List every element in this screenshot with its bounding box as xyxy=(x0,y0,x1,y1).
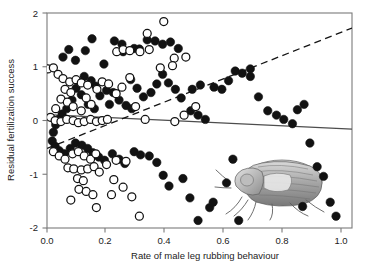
y-tick-label: 1 xyxy=(33,61,38,72)
data-point xyxy=(222,179,230,187)
data-point xyxy=(61,155,69,163)
data-point xyxy=(209,198,217,206)
data-point xyxy=(136,151,144,159)
data-point xyxy=(119,183,127,191)
data-point xyxy=(151,37,159,45)
data-point xyxy=(145,46,153,54)
data-point xyxy=(92,204,100,212)
data-point xyxy=(112,90,120,98)
x-axis-tick-labels: 0.0 0.2 0.4 0.6 0.8 1.0 xyxy=(40,235,347,246)
data-point xyxy=(280,115,288,123)
data-point xyxy=(164,79,172,87)
data-point xyxy=(188,85,196,93)
data-point xyxy=(103,161,111,169)
data-point xyxy=(254,93,262,101)
data-point xyxy=(67,196,75,204)
data-point xyxy=(165,182,173,190)
data-point xyxy=(313,163,321,171)
data-point xyxy=(201,115,209,123)
data-point xyxy=(110,37,118,45)
data-point xyxy=(118,83,126,91)
data-point xyxy=(246,65,254,73)
data-point xyxy=(103,115,111,123)
data-point xyxy=(133,84,141,92)
data-point xyxy=(159,171,167,179)
data-point xyxy=(218,85,226,93)
beetle-illustration xyxy=(215,160,324,220)
data-point xyxy=(147,88,155,96)
data-point xyxy=(126,47,134,55)
data-point xyxy=(145,152,153,160)
data-point xyxy=(153,80,161,88)
x-tick-label: 0.4 xyxy=(157,235,170,246)
data-point xyxy=(194,111,202,119)
data-point xyxy=(95,168,103,176)
data-point xyxy=(143,29,151,37)
data-point xyxy=(194,216,202,224)
data-point xyxy=(224,77,232,85)
data-point xyxy=(264,107,272,115)
data-point xyxy=(170,54,178,62)
data-point xyxy=(180,111,188,119)
data-point xyxy=(319,172,327,180)
data-point xyxy=(77,107,85,115)
data-point xyxy=(326,198,334,206)
data-point xyxy=(84,81,92,89)
data-point xyxy=(153,158,161,166)
data-point xyxy=(67,89,75,97)
x-axis-title: Rate of male leg rubbing behaviour xyxy=(131,250,279,261)
data-point xyxy=(79,177,87,185)
data-point xyxy=(122,157,130,165)
data-point xyxy=(174,44,182,52)
y-tick-label: 2 xyxy=(33,8,38,19)
data-point xyxy=(300,100,308,108)
data-point xyxy=(71,56,79,64)
data-point xyxy=(288,120,296,128)
data-point xyxy=(272,111,280,119)
data-point xyxy=(229,155,237,163)
y-axis-tick-labels: 2 1 0 -1 -2 xyxy=(30,8,38,234)
y-tick-label: -1 xyxy=(30,169,38,180)
data-point xyxy=(128,193,136,201)
data-point xyxy=(156,64,164,72)
data-point xyxy=(81,46,89,54)
data-point xyxy=(70,165,78,173)
data-point xyxy=(105,100,113,108)
data-point xyxy=(192,103,200,111)
data-point xyxy=(332,212,340,220)
x-tick-label: 0.0 xyxy=(40,235,53,246)
data-point xyxy=(186,194,194,202)
data-point xyxy=(136,48,144,56)
data-point xyxy=(168,62,176,70)
data-point xyxy=(126,74,134,82)
x-tick-label: 0.6 xyxy=(216,235,229,246)
x-tick-label: 0.8 xyxy=(275,235,288,246)
data-point xyxy=(141,115,149,123)
data-point xyxy=(82,94,90,102)
x-axis-ticks xyxy=(47,228,341,233)
data-point xyxy=(100,60,108,68)
data-point xyxy=(196,81,204,89)
data-point xyxy=(132,103,140,111)
data-point xyxy=(92,150,100,158)
y-axis-ticks xyxy=(43,13,48,228)
data-point xyxy=(110,176,118,184)
data-point xyxy=(52,105,60,113)
data-point xyxy=(49,128,57,136)
data-point xyxy=(88,35,96,43)
data-point xyxy=(171,118,179,126)
x-tick-label: 0.2 xyxy=(98,235,111,246)
y-axis-title: Residual fertilization success xyxy=(5,59,16,181)
data-point xyxy=(105,80,113,88)
scatter-plot-figure: 2 1 0 -1 -2 0.0 0.2 0.4 0.6 0.8 1.0 Rate… xyxy=(0,0,365,267)
x-tick-label: 1.0 xyxy=(334,235,347,246)
data-point xyxy=(59,53,67,61)
data-point xyxy=(182,53,190,61)
data-point xyxy=(235,216,243,224)
data-point xyxy=(158,40,166,48)
data-point xyxy=(306,139,314,147)
data-point xyxy=(107,191,115,199)
data-point xyxy=(139,93,147,101)
data-point xyxy=(65,45,73,53)
data-point xyxy=(166,38,174,46)
